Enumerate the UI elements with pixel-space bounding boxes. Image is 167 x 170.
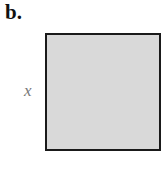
panel-label: b. [5,2,22,23]
side-length-label: x [24,82,32,99]
gray-square [45,33,161,151]
